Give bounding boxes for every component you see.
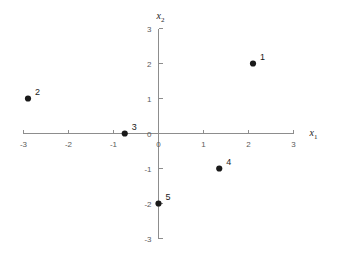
x-axis-tick-label: -3 (20, 140, 28, 149)
x-axis-tick-label: -2 (65, 140, 73, 149)
y-axis-tick-label: -1 (144, 165, 152, 174)
data-point-marker (25, 95, 31, 101)
data-point-label: 3 (132, 122, 137, 132)
x-axis-tick-label: 2 (246, 140, 251, 149)
plot-canvas: -3-2-10123-3-2-1012312345x1x2 (0, 0, 337, 255)
x-axis-tick-label: 1 (201, 140, 206, 149)
y-axis-title-subscript: 2 (161, 16, 165, 24)
y-axis-tick-label: 0 (147, 130, 152, 139)
data-point-label: 2 (35, 87, 40, 97)
data-point: 1 (250, 52, 265, 67)
y-axis-tick-label: -3 (144, 235, 152, 244)
x-axis-tick-label: 3 (291, 140, 296, 149)
x-axis-title-subscript: 1 (314, 133, 318, 141)
y-axis-tick-label: -2 (144, 200, 152, 209)
data-point-marker (122, 130, 128, 136)
data-point-label: 1 (260, 52, 265, 62)
y-axis-tick-label: 1 (147, 95, 152, 104)
x-axis-tick-label: 0 (156, 140, 161, 149)
data-point: 2 (25, 87, 40, 102)
y-axis-tick-label: 3 (147, 25, 152, 34)
data-point: 5 (155, 192, 170, 207)
data-point-label: 5 (166, 192, 171, 202)
x-axis-tick-label: -1 (110, 140, 118, 149)
data-point-label: 4 (226, 157, 231, 167)
data-point-marker (216, 165, 222, 171)
y-axis-tick-label: 2 (147, 60, 152, 69)
data-point: 4 (216, 157, 231, 172)
x-axis-title: x1 (309, 127, 318, 141)
scatter-plot-figure: -3-2-10123-3-2-1012312345x1x2 (0, 0, 337, 255)
data-point: 3 (122, 122, 137, 137)
data-point-marker (250, 60, 256, 66)
y-axis-title: x2 (156, 10, 165, 24)
data-point-marker (155, 200, 161, 206)
